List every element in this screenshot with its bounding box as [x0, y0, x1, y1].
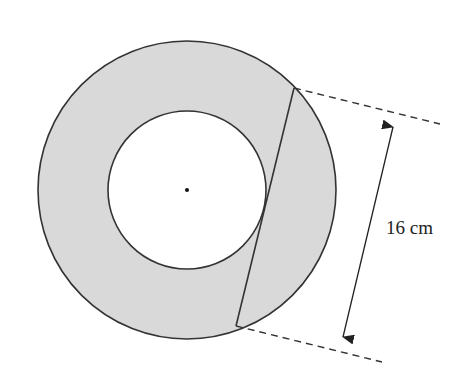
dashed-extension-bottom — [236, 326, 382, 362]
chord-length-label: 16 cm — [386, 217, 433, 238]
annulus-diagram: 16 cm — [0, 0, 475, 383]
centre-point — [185, 188, 189, 192]
